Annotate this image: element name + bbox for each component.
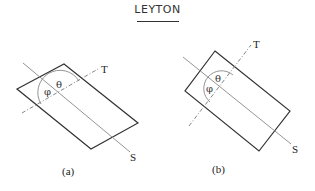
s-axis-label-a: S (130, 151, 136, 163)
parallelogram-a (17, 64, 138, 149)
s-axis-label-b: S (292, 143, 298, 155)
t-axis-line-b (189, 45, 251, 126)
figure-a: θ φ T S (a) (17, 63, 138, 178)
caption-a: (a) (62, 165, 75, 178)
diagram-canvas: θ φ T S (a) θ φ T S (b) (0, 0, 315, 191)
s-axis-line-b (183, 57, 291, 144)
phi-label-b: φ (206, 83, 213, 94)
phi-label-a: φ (44, 86, 51, 97)
figure-b: θ φ T S (b) (183, 38, 298, 176)
t-axis-line-a (22, 69, 98, 113)
theta-label-b: θ (215, 73, 221, 84)
t-axis-label-a: T (101, 63, 108, 75)
caption-b: (b) (212, 163, 225, 176)
t-axis-label-b: T (253, 38, 260, 50)
theta-label-a: θ (56, 79, 62, 90)
